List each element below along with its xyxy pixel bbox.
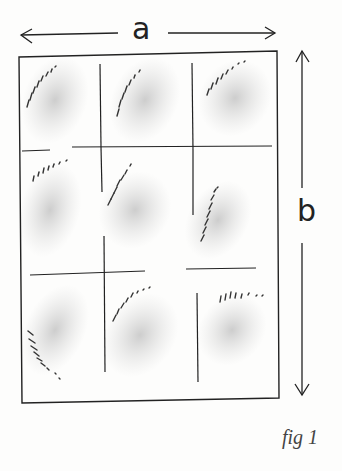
figure-caption: fig 1 <box>282 426 318 449</box>
diagram-canvas <box>0 0 342 471</box>
shading <box>8 45 287 392</box>
width-label: a <box>132 14 150 44</box>
height-label: b <box>297 196 316 226</box>
